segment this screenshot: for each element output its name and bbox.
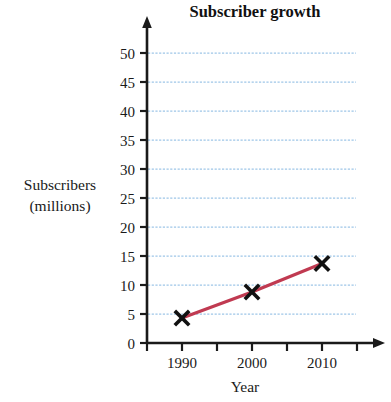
data-point-markers [175,256,329,325]
x-axis-label: Year [231,378,260,395]
y-tick-label: 35 [120,133,135,149]
y-tick-label: 10 [120,278,135,294]
y-tick-label: 20 [120,220,135,236]
y-axis-label-line1: Subscribers [24,176,96,193]
chart-container: Subscriber growth Subscribers (millions)… [0,0,391,402]
y-tick-label: 30 [120,162,135,178]
y-tick-label: 5 [128,307,136,323]
x-axis-tick-labels: 199020002010 [167,355,337,371]
y-tick-label: 40 [120,104,135,120]
y-tick-label: 50 [120,46,135,62]
x-axis-arrowhead [373,338,385,348]
data-point-marker-x [175,311,189,325]
chart-title: Subscriber growth [190,2,321,21]
x-tick-label: 2010 [307,355,337,371]
y-axis-label-line2: (millions) [29,197,90,215]
subscriber-growth-line-chart: Subscriber growth Subscribers (millions)… [0,0,391,402]
y-tick-label: 0 [128,336,136,352]
data-point-marker-x [315,256,329,270]
y-axis-arrowhead [142,16,152,28]
y-tick-label: 15 [120,249,135,265]
y-axis-tick-labels: 05101520253035404550 [120,46,135,352]
x-tick-label: 2000 [237,355,267,371]
y-tick-label: 25 [120,191,135,207]
y-tick-label: 45 [120,75,135,91]
gridlines [148,53,356,314]
x-tick-label: 1990 [167,355,197,371]
data-point-marker-x [245,285,259,299]
